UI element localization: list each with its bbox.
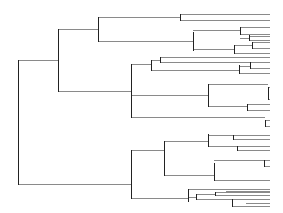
dendrogram xyxy=(0,0,283,213)
dendrogram-canvas xyxy=(0,0,283,213)
